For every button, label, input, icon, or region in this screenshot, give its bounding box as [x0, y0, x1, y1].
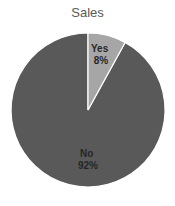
slice-label-yes: Yes 8% — [91, 43, 111, 66]
slice-label-no: No 92% — [78, 148, 98, 171]
pie-chart: Yes 8% No 92% — [0, 0, 175, 206]
